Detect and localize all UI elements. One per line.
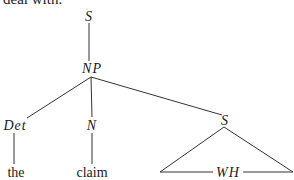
edge-np-s2 <box>91 77 222 115</box>
edge-np-det <box>27 77 91 118</box>
node-n: N <box>87 119 97 133</box>
node-s-root: S <box>85 10 93 24</box>
edge-np-n <box>91 77 92 117</box>
node-np: NP <box>82 62 102 76</box>
node-s-embedded: S <box>221 114 229 128</box>
syntax-tree-edges <box>0 0 294 180</box>
leaf-the: the <box>7 166 24 180</box>
node-wh: WH <box>213 166 243 180</box>
node-det: Det <box>3 119 26 133</box>
leaf-claim: claim <box>76 166 107 180</box>
